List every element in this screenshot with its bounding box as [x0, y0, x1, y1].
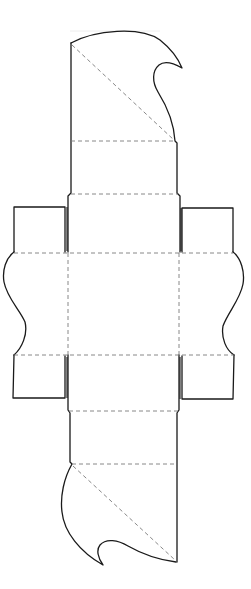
left-wave-outline: [3, 252, 25, 355]
top-left-edge: [68, 43, 71, 252]
right-top-tab-outline: [182, 208, 233, 252]
left-top-tab-outline: [14, 207, 65, 252]
cut-outline: [3, 31, 243, 565]
bottom-left-edge: [61, 355, 176, 565]
bottom-right-edge: [177, 355, 179, 562]
right-wave-outline: [223, 252, 244, 355]
slits: [67, 207, 181, 399]
fold-bottom-diagonal: [73, 466, 175, 560]
right-bottom-tab-outline: [182, 355, 234, 399]
box-template-diagram: [0, 0, 251, 589]
top-lid-flap-outline: [71, 31, 182, 252]
left-bottom-tab-outline: [13, 355, 65, 398]
fold-lines: [14, 45, 234, 560]
